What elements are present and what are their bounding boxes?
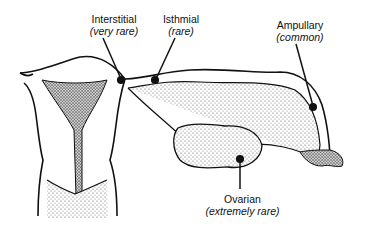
site-name: Interstitial	[78, 13, 150, 25]
site-name: Ampullary	[265, 19, 335, 31]
ovarian-marker	[237, 156, 244, 163]
label-isthmial: Isthmial (rare)	[157, 13, 205, 37]
site-name: Isthmial	[157, 13, 205, 25]
label-ovarian: Ovarian (extremely rare)	[195, 193, 290, 217]
label-interstitial: Interstitial (very rare)	[78, 13, 150, 37]
isthmial-marker	[152, 77, 159, 84]
interstitial-marker	[118, 77, 125, 84]
frequency-note: (rare)	[157, 25, 205, 37]
ovary	[174, 124, 262, 168]
site-name: Ovarian	[195, 193, 290, 205]
ampullary-marker	[310, 104, 317, 111]
label-ampullary: Ampullary (common)	[265, 19, 335, 43]
frequency-note: (common)	[265, 31, 335, 43]
uterine-cavity	[42, 80, 107, 196]
uterus	[20, 57, 125, 216]
frequency-note: (very rare)	[78, 25, 150, 37]
frequency-note: (extremely rare)	[195, 205, 290, 217]
